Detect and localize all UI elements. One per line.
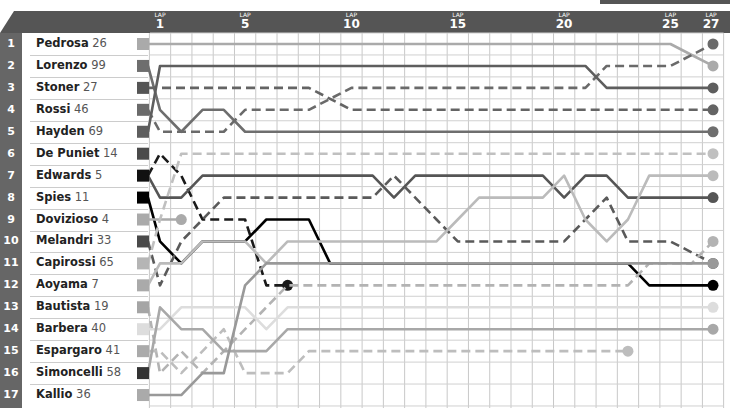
- grid-marker: [137, 257, 149, 269]
- end-marker-dovizioso: [176, 214, 187, 225]
- end-marker-pedrosa: [708, 60, 719, 71]
- end-marker-barbera: [708, 302, 719, 313]
- grid-marker: [137, 60, 149, 72]
- grid-marker: [137, 323, 149, 335]
- grid-marker: [137, 279, 149, 291]
- end-marker-aoyama: [708, 170, 719, 181]
- grid-marker: [137, 214, 149, 226]
- grid-marker: [137, 235, 149, 247]
- grid-marker: [137, 148, 149, 160]
- grid-marker: [137, 192, 149, 204]
- end-marker-lorenzo: [708, 126, 719, 137]
- end-marker-edwards: [708, 192, 719, 203]
- grid-marker: [137, 170, 149, 182]
- series-line-espargaro: [148, 329, 628, 373]
- grid-marker: [137, 126, 149, 138]
- end-marker-spies: [708, 280, 719, 291]
- end-marker-rossi: [708, 39, 719, 50]
- end-marker-simoncelli: [708, 324, 719, 335]
- end-marker-bautista: [708, 236, 719, 247]
- grid-marker: [137, 345, 149, 357]
- end-marker-capirossi: [708, 148, 719, 159]
- end-marker-hayden: [708, 82, 719, 93]
- grid-marker: [137, 301, 149, 313]
- lap-chart: [0, 0, 730, 414]
- grid-marker: [137, 104, 149, 116]
- grid-marker: [137, 389, 149, 401]
- end-marker-stoner: [708, 104, 719, 115]
- end-marker-kallio: [708, 258, 719, 269]
- grid-marker: [137, 38, 149, 50]
- end-marker-espargaro: [622, 346, 633, 357]
- grid-marker: [137, 367, 149, 379]
- grid-marker: [137, 82, 149, 94]
